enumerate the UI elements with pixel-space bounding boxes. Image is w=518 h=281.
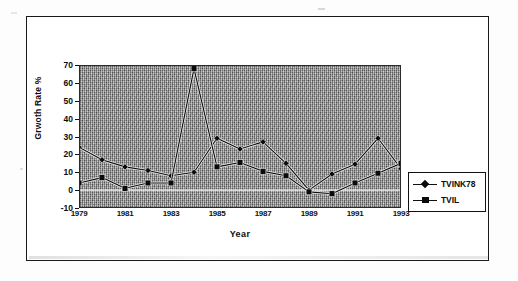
chart-legend: TVINK78TVIL xyxy=(408,172,486,212)
scan-artifact-speck xyxy=(20,168,23,170)
legend-entry[interactable]: TVIL xyxy=(413,192,481,208)
y-axis-ticks: 706050403020100-10 xyxy=(49,57,75,217)
y-axis-tick-label: 50 xyxy=(64,97,73,105)
x-axis-tick-label: 1981 xyxy=(117,209,134,218)
square-marker-icon xyxy=(422,197,429,204)
x-axis-tick-label: 1979 xyxy=(71,209,88,218)
data-point-marker xyxy=(145,180,151,186)
data-point-marker xyxy=(237,160,243,166)
data-point-marker xyxy=(122,164,128,170)
x-axis-title: Year xyxy=(79,229,401,239)
data-point-marker xyxy=(99,175,105,181)
series-tvil xyxy=(79,66,401,197)
data-point-marker xyxy=(283,173,289,179)
data-point-marker xyxy=(260,168,266,174)
legend-label: TVIL xyxy=(441,195,459,205)
square-marker-icon xyxy=(413,194,437,206)
x-axis-tick-label: 1985 xyxy=(209,209,226,218)
x-axis-tick-label: 1993 xyxy=(393,209,410,218)
data-point-marker xyxy=(329,191,335,197)
x-axis-ticks: 19791981198319851987198919911993 xyxy=(79,209,401,223)
x-axis-tick-label: 1983 xyxy=(163,209,180,218)
y-axis-tick-label: 40 xyxy=(64,115,73,123)
scan-artifact-smudge xyxy=(29,256,488,259)
legend-entry[interactable]: TVINK78 xyxy=(413,176,481,192)
scanned-page: Grwoth Rate % 706050403020100-10 1979198… xyxy=(0,0,518,281)
series-line xyxy=(79,69,401,194)
scan-artifact-speck xyxy=(318,8,325,10)
x-axis-tick-label: 1991 xyxy=(347,209,364,218)
plot-area xyxy=(79,65,401,208)
data-point-marker xyxy=(306,189,312,195)
y-axis-tick-label: 20 xyxy=(64,150,73,158)
y-axis-tick-label: 30 xyxy=(64,133,73,141)
x-axis-tick-label: 1989 xyxy=(301,209,318,218)
y-axis-tick-label: 0 xyxy=(68,186,73,194)
data-point-marker xyxy=(398,160,401,166)
data-point-marker xyxy=(168,180,174,186)
data-point-marker xyxy=(145,167,151,173)
x-axis-tick-label: 1987 xyxy=(255,209,272,218)
chart-frame: Grwoth Rate % 706050403020100-10 1979198… xyxy=(26,16,489,261)
data-point-marker xyxy=(352,180,358,186)
data-point-marker xyxy=(79,180,82,186)
line-chart: Grwoth Rate % 706050403020100-10 1979198… xyxy=(27,17,490,262)
series-layer xyxy=(79,65,401,208)
diamond-marker-icon xyxy=(413,178,437,190)
legend-label: TVINK78 xyxy=(441,179,475,189)
data-point-marker xyxy=(122,185,128,191)
data-point-marker xyxy=(191,66,197,72)
series-line-halo xyxy=(79,69,401,194)
y-axis-tick-label: 60 xyxy=(64,79,73,87)
data-point-marker xyxy=(214,164,220,170)
scan-artifact-speck xyxy=(11,12,17,14)
y-axis-tick-label: 10 xyxy=(64,168,73,176)
y-axis-tick-label: 70 xyxy=(64,61,73,69)
data-point-marker xyxy=(375,170,381,176)
diamond-marker-icon xyxy=(421,179,429,187)
y-axis-title: Grwoth Rate % xyxy=(33,73,43,143)
